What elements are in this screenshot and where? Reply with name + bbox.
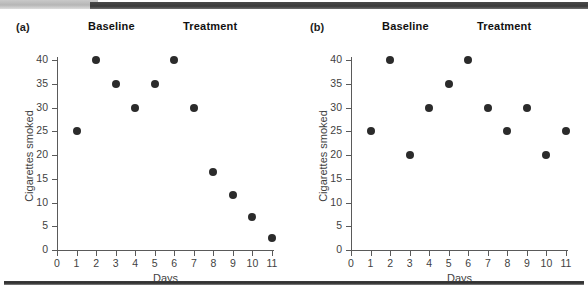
data-point	[542, 151, 550, 159]
x-tick-a	[233, 251, 234, 256]
x-tick-b	[546, 251, 547, 256]
y-tick-b	[346, 179, 352, 180]
x-tick-b	[351, 251, 352, 256]
y-tick-a	[52, 84, 58, 85]
x-tick-a	[213, 251, 214, 256]
y-tick-b	[346, 84, 352, 85]
x-tick-label-a: 11	[260, 257, 284, 269]
y-axis-line-a	[57, 57, 58, 251]
y-tick-label-a: 20	[8, 148, 48, 160]
data-point	[503, 127, 511, 135]
data-point	[229, 191, 237, 199]
data-point	[170, 56, 178, 64]
y-tick-b	[346, 203, 352, 204]
y-tick-b	[346, 226, 352, 227]
y-tick-a	[52, 60, 58, 61]
y-tick-label-b: 15	[302, 172, 342, 184]
y-tick-b	[346, 155, 352, 156]
x-tick-b	[429, 251, 430, 256]
top-decorative-band	[0, 0, 588, 12]
x-tick-a	[96, 251, 97, 256]
x-tick-a	[155, 251, 156, 256]
x-tick-a	[174, 251, 175, 256]
data-point	[484, 104, 492, 112]
data-point	[406, 151, 414, 159]
y-tick-label-a: 15	[8, 172, 48, 184]
y-tick-label-a: 10	[8, 196, 48, 208]
y-tick-a	[52, 155, 58, 156]
data-point	[112, 80, 120, 88]
y-tick-a	[52, 179, 58, 180]
y-tick-a	[52, 131, 58, 132]
x-tick-b	[390, 251, 391, 256]
x-tick-b	[527, 251, 528, 256]
y-tick-b	[346, 60, 352, 61]
y-tick-b	[346, 108, 352, 109]
x-tick-b	[468, 251, 469, 256]
y-tick-label-b: 25	[302, 124, 342, 136]
x-tick-a	[116, 251, 117, 256]
y-tick-a	[52, 108, 58, 109]
y-tick-label-a: 5	[8, 219, 48, 231]
chart-panel-b: (b) Baseline Treatment Cigarettes smoked…	[294, 14, 588, 276]
y-tick-label-b: 5	[302, 219, 342, 231]
x-tick-b	[371, 251, 372, 256]
data-point	[268, 234, 276, 242]
data-point	[425, 104, 433, 112]
y-tick-label-a: 40	[8, 53, 48, 65]
data-point	[386, 56, 394, 64]
top-band-light-segment	[0, 0, 98, 9]
x-tick-b	[449, 251, 450, 256]
y-tick-label-b: 30	[302, 101, 342, 113]
y-axis-line-b	[351, 57, 352, 251]
plot-area-b: Cigarettes smoked Days 05101520253035400…	[294, 14, 588, 276]
x-tick-b	[566, 251, 567, 256]
x-tick-b	[410, 251, 411, 256]
data-point	[131, 104, 139, 112]
x-tick-a	[252, 251, 253, 256]
y-tick-label-a: 25	[8, 124, 48, 136]
data-point	[445, 80, 453, 88]
data-point	[523, 104, 531, 112]
data-point	[73, 127, 81, 135]
y-tick-label-a: 30	[8, 101, 48, 113]
x-tick-b	[507, 251, 508, 256]
x-tick-label-b: 11	[554, 257, 578, 269]
y-tick-label-b: 20	[302, 148, 342, 160]
y-tick-a	[52, 203, 58, 204]
data-point	[367, 127, 375, 135]
y-tick-label-b: 0	[302, 243, 342, 255]
data-point	[92, 56, 100, 64]
y-tick-label-b: 10	[302, 196, 342, 208]
y-tick-b	[346, 131, 352, 132]
x-tick-a	[272, 251, 273, 256]
y-tick-label-b: 40	[302, 53, 342, 65]
x-tick-a	[57, 251, 58, 256]
x-tick-a	[194, 251, 195, 256]
top-band-dark-segment	[90, 2, 588, 9]
data-point	[464, 56, 472, 64]
x-tick-a	[77, 251, 78, 256]
plot-area-a: Cigarettes smoked Days 05101520253035400…	[0, 14, 294, 276]
x-tick-a	[135, 251, 136, 256]
bottom-horizontal-rule	[4, 281, 584, 285]
y-tick-label-b: 35	[302, 77, 342, 89]
chart-panel-a: (a) Baseline Treatment Cigarettes smoked…	[0, 14, 294, 276]
y-tick-a	[52, 226, 58, 227]
y-tick-label-a: 35	[8, 77, 48, 89]
x-tick-b	[488, 251, 489, 256]
data-point	[151, 80, 159, 88]
data-point	[562, 127, 570, 135]
data-point	[190, 104, 198, 112]
data-point	[209, 168, 217, 176]
x-axis-line-a	[57, 250, 274, 251]
x-axis-line-b	[351, 250, 568, 251]
y-tick-label-a: 0	[8, 243, 48, 255]
data-point	[248, 213, 256, 221]
